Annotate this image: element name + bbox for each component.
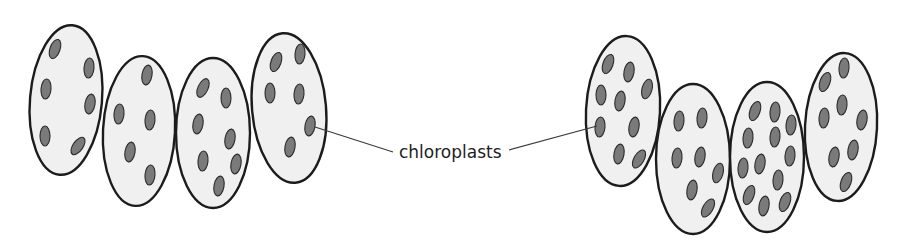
left-cell-2 bbox=[99, 54, 179, 208]
label-leader-line-left bbox=[315, 127, 393, 152]
cell-wall bbox=[99, 54, 179, 208]
left-algal-filament bbox=[24, 22, 333, 208]
cell-wall bbox=[656, 84, 730, 234]
chloroplast bbox=[265, 83, 275, 103]
cell-wall bbox=[582, 34, 664, 188]
left-cell-1 bbox=[24, 22, 109, 178]
filament-diagram: chloroplasts bbox=[0, 0, 909, 251]
left-cell-4 bbox=[246, 30, 333, 186]
right-cell-4 bbox=[801, 51, 881, 203]
chloroplast bbox=[40, 126, 50, 146]
label-leader-line-right bbox=[509, 126, 597, 150]
cell-wall bbox=[176, 58, 250, 208]
right-cell-2 bbox=[656, 84, 730, 234]
right-cell-3 bbox=[730, 82, 804, 232]
chloroplasts-label: chloroplasts bbox=[399, 142, 502, 162]
left-cell-3 bbox=[176, 58, 250, 208]
right-algal-filament bbox=[582, 34, 881, 234]
chloroplast bbox=[221, 88, 231, 108]
chloroplast bbox=[596, 85, 606, 105]
right-cell-1 bbox=[582, 34, 664, 188]
cell-wall bbox=[246, 30, 333, 186]
